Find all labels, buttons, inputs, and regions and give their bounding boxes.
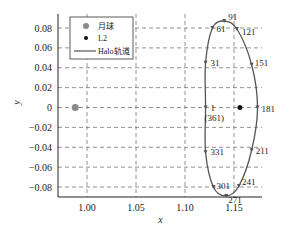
y-tick-label: 0.06 — [35, 42, 53, 53]
legend-moon-icon — [83, 23, 89, 29]
y-tick-label: 0.04 — [35, 62, 53, 73]
orbit-point-label: 31 — [211, 58, 220, 68]
y-tick-label: −0.08 — [29, 182, 52, 193]
orbit-arrow-icon — [204, 61, 208, 65]
orbit-point-label: 151 — [255, 58, 269, 68]
y-tick-label: −0.06 — [29, 162, 52, 173]
legend-label-l2: L2 — [98, 34, 107, 43]
y-tick-label: −0.02 — [29, 122, 52, 133]
orbit-point-label: 91 — [228, 12, 237, 22]
y-tick-label: 0.08 — [35, 23, 53, 34]
orbit-arrow-icon — [250, 63, 254, 67]
legend-label-moon: 月球 — [98, 21, 114, 31]
orbit-arrow-icon — [204, 150, 208, 154]
x-axis-label: x — [157, 214, 163, 225]
orbit-point-label: 241 — [242, 177, 256, 187]
moon-marker — [72, 104, 79, 111]
legend: 月球L2Halo轨道 — [70, 17, 133, 59]
legend-l2-icon — [84, 36, 88, 40]
x-tick-label: 1.10 — [176, 202, 194, 213]
x-tick-label: 1.00 — [78, 202, 96, 213]
x-tick-label: 1.05 — [127, 202, 145, 213]
orbit-point-label: 1 — [211, 103, 216, 113]
l2-marker — [237, 105, 242, 110]
orbit-point-label: 301 — [216, 181, 230, 191]
orbit-point-label: 121 — [242, 27, 256, 37]
y-tick-label: −0.04 — [29, 142, 52, 153]
orbit-point-label: 271 — [228, 195, 242, 205]
halo-orbit-chart: 1.001.051.101.150.080.060.040.020−0.02−0… — [0, 0, 297, 229]
legend-label-orbit: Halo轨道 — [98, 46, 130, 56]
orbit-point-label: 181 — [262, 104, 276, 114]
orbit-arrow-icon — [250, 148, 254, 152]
orbit-point-label: 211 — [256, 146, 269, 156]
orbit-point-label: (361) — [205, 113, 225, 123]
y-tick-label: 0.02 — [35, 82, 53, 93]
orbit-point-label: 331 — [211, 147, 225, 157]
y-axis-label: y — [11, 100, 22, 106]
y-tick-label: 0 — [47, 102, 52, 113]
orbit-point-label: 61 — [216, 24, 225, 34]
